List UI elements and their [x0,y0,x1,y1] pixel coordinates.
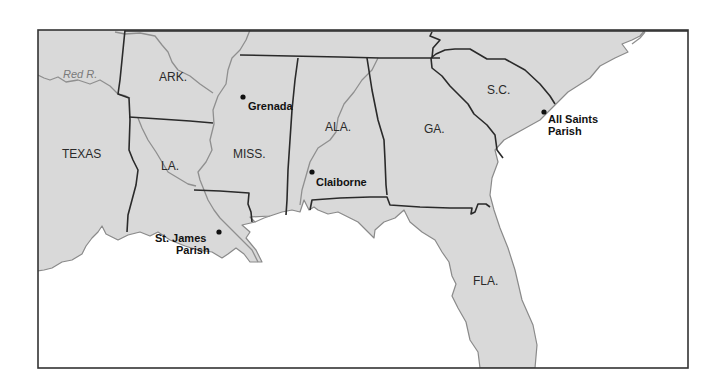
state-label-south-carolina: S.C. [487,83,510,97]
place-label-st-james-line2: Parish [176,244,210,256]
state-label-georgia: GA. [424,122,445,136]
place-label-all-saints-line1: All Saints [548,113,598,125]
state-label-alabama: ALA. [325,120,351,134]
place-label-all-saints-line2: Parish [548,125,582,137]
map-canvas: TEXAS ARK. LA. MISS. ALA. GA. S.C. FLA. … [0,0,720,385]
place-label-st-james-line1: St. James [155,232,206,244]
state-label-mississippi: MISS. [233,147,266,161]
place-marker-icon [541,109,546,114]
place-marker-icon [240,94,245,99]
place-marker-icon [216,229,221,234]
state-label-arkansas: ARK. [159,70,187,84]
place-marker-icon [309,169,314,174]
place-label-grenada: Grenada [248,100,294,112]
place-all-saints-parish: All Saints Parish [541,109,598,137]
state-label-florida: FLA. [473,274,498,288]
land-mass [30,20,700,368]
state-label-louisiana: LA. [161,159,179,173]
river-label-red: Red R. [63,68,97,80]
state-label-texas: TEXAS [62,147,101,161]
place-label-claiborne: Claiborne [316,176,367,188]
